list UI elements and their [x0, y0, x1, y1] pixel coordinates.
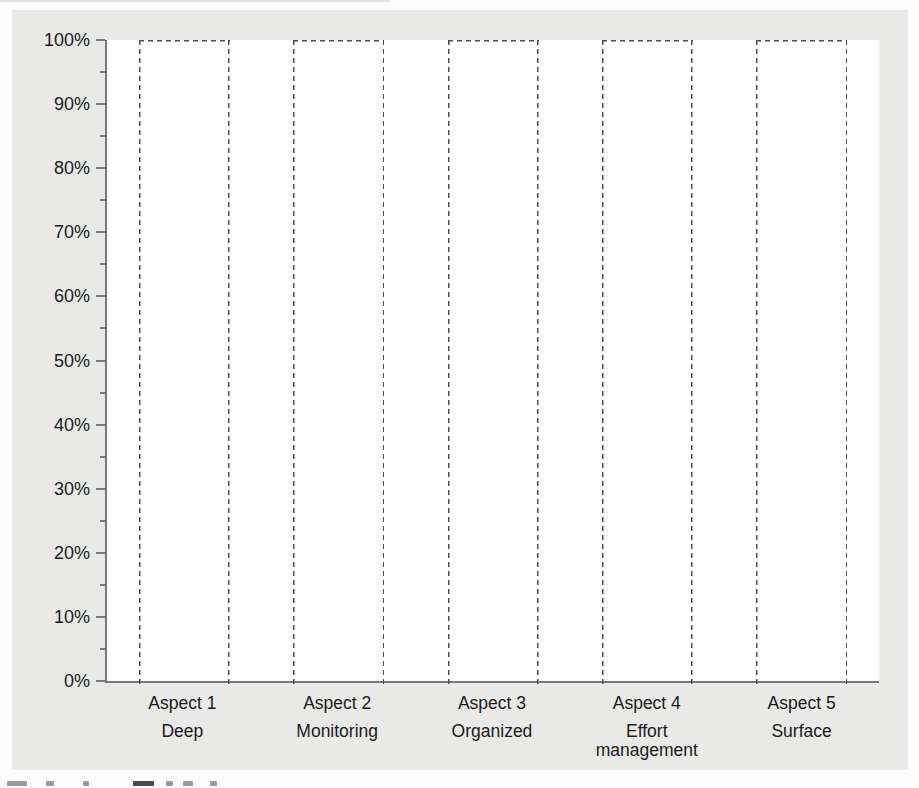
cropped-text-fragment	[133, 781, 154, 786]
ytick-minor-5	[100, 648, 105, 650]
category-subtitle: Effort management	[569, 722, 724, 760]
ytick-50: 50%	[96, 360, 105, 362]
category-title: Aspect 1	[105, 694, 260, 712]
category-label-aspect-2: Aspect 2 Monitoring	[260, 694, 415, 760]
ytick-40: 40%	[96, 424, 105, 426]
ytick-0: 0%	[96, 680, 105, 682]
y-axis-label-40: 40%	[54, 416, 90, 434]
category-label-aspect-5: Aspect 5 Surface	[724, 694, 879, 760]
ytick-60: 60%	[96, 295, 105, 297]
scan-artifact	[0, 0, 390, 2]
cropped-text-fragment	[210, 781, 217, 786]
category-subtitle: Deep	[105, 722, 260, 741]
ytick-minor-65	[100, 263, 105, 265]
ytick-20: 20%	[96, 552, 105, 554]
category-label-aspect-4: Aspect 4 Effort management	[569, 694, 724, 760]
category-title: Aspect 2	[260, 694, 415, 712]
bar-aspect-1	[139, 40, 230, 688]
y-axis-label-10: 10%	[54, 608, 90, 626]
category-title: Aspect 4	[569, 694, 724, 712]
y-axis-label-90: 90%	[54, 95, 90, 113]
y-axis-label-70: 70%	[54, 223, 90, 241]
ytick-minor-55	[100, 327, 105, 329]
bar-aspect-2	[293, 40, 384, 688]
cropped-caption	[0, 781, 919, 788]
page: 100% 90% 80% 70% 60% 50% 40% 30% 20% 10%…	[0, 0, 919, 788]
category-label-aspect-3: Aspect 3 Organized	[415, 694, 570, 760]
cropped-text-fragment	[46, 781, 54, 786]
ytick-minor-15	[100, 584, 105, 586]
ytick-minor-85	[100, 135, 105, 137]
ytick-90: 90%	[96, 103, 105, 105]
ytick-minor-95	[100, 71, 105, 73]
cropped-text-fragment	[83, 781, 89, 786]
y-axis-label-20: 20%	[54, 544, 90, 562]
ytick-70: 70%	[96, 231, 105, 233]
y-axis-label-100: 100%	[44, 31, 90, 49]
plot-area: 100% 90% 80% 70% 60% 50% 40% 30% 20% 10%…	[105, 40, 879, 683]
y-axis-label-0: 0%	[64, 672, 90, 690]
y-axis-label-30: 30%	[54, 480, 90, 498]
cropped-text-fragment	[183, 781, 193, 786]
cropped-text-fragment	[166, 781, 173, 786]
y-axis-label-60: 60%	[54, 287, 90, 305]
category-title: Aspect 3	[415, 694, 570, 712]
bar-chart-figure: 100% 90% 80% 70% 60% 50% 40% 30% 20% 10%…	[12, 10, 908, 770]
x-axis-labels: Aspect 1 Deep Aspect 2 Monitoring Aspect…	[105, 694, 879, 760]
category-label-aspect-1: Aspect 1 Deep	[105, 694, 260, 760]
bar-aspect-4	[602, 40, 693, 688]
bar-aspect-3	[448, 40, 539, 688]
category-subtitle: Monitoring	[260, 722, 415, 741]
ytick-minor-75	[100, 199, 105, 201]
category-subtitle: Surface	[724, 722, 879, 741]
ytick-80: 80%	[96, 167, 105, 169]
ytick-minor-25	[100, 520, 105, 522]
ytick-10: 10%	[96, 616, 105, 618]
y-axis-label-50: 50%	[54, 352, 90, 370]
category-subtitle: Organized	[415, 722, 570, 741]
bar-aspect-5	[756, 40, 847, 688]
ytick-minor-45	[100, 392, 105, 394]
ytick-100: 100%	[96, 39, 105, 41]
cropped-text-fragment	[7, 781, 27, 786]
ytick-30: 30%	[96, 488, 105, 490]
ytick-minor-35	[100, 456, 105, 458]
category-title: Aspect 5	[724, 694, 879, 712]
y-axis-label-80: 80%	[54, 159, 90, 177]
